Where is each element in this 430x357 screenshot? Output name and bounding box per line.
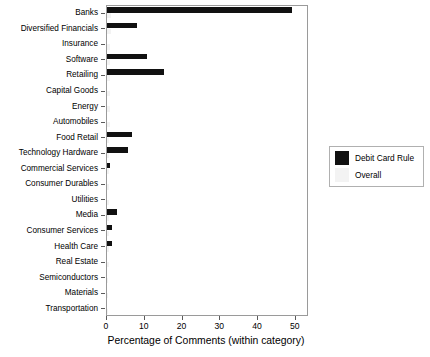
bar-overall <box>107 29 111 34</box>
y-axis-labels: BanksDiversified FinancialsInsuranceSoft… <box>0 5 98 316</box>
legend-swatch <box>335 151 349 165</box>
x-axis-tick-label: 40 <box>242 321 272 331</box>
y-axis-tick <box>101 44 105 45</box>
bar-row <box>107 255 307 270</box>
y-axis-tick <box>101 215 105 216</box>
bar-debit-card-rule <box>107 7 292 12</box>
bar-overall <box>107 91 110 96</box>
bar-overall <box>107 138 109 143</box>
y-axis-tick <box>101 293 105 294</box>
y-axis-tick <box>101 308 105 309</box>
y-axis-tick-label: Retailing <box>0 70 98 79</box>
x-axis-tick-label: 50 <box>280 321 310 331</box>
bar-overall <box>107 231 109 236</box>
bar-overall <box>107 278 108 283</box>
y-axis-tick <box>101 199 105 200</box>
y-axis-tick <box>101 168 105 169</box>
x-axis-tick <box>257 316 258 320</box>
bar-overall <box>107 200 109 205</box>
bar-row <box>107 22 307 37</box>
bar-row <box>107 130 307 145</box>
bar-row <box>107 146 307 161</box>
bar-row <box>107 6 307 21</box>
y-axis-tick <box>101 262 105 263</box>
legend-label: Overall <box>355 170 381 180</box>
bar-overall <box>107 215 109 220</box>
y-axis-tick <box>101 153 105 154</box>
bar-row <box>107 177 307 192</box>
y-axis-tick <box>101 91 105 92</box>
bar-debit-card-rule <box>107 163 110 168</box>
y-axis-tick-label: Diversified Financials <box>0 24 98 33</box>
y-axis-tick-label: Software <box>0 55 98 64</box>
legend: Debit Card RuleOverall <box>329 146 424 187</box>
bar-row <box>107 301 307 316</box>
bar-overall <box>107 13 111 18</box>
y-axis-tick-label: Banks <box>0 8 98 17</box>
x-axis-title: Percentage of Comments (within category) <box>86 334 326 347</box>
bar-overall <box>107 122 110 127</box>
y-axis-tick <box>101 230 105 231</box>
bar-overall <box>107 184 109 189</box>
bar-row <box>107 270 307 285</box>
bar-overall <box>107 169 109 174</box>
y-axis-tick <box>101 137 105 138</box>
plot-panel <box>106 5 308 316</box>
bar-chart: BanksDiversified FinancialsInsuranceSoft… <box>0 0 430 357</box>
y-axis-tick <box>101 28 105 29</box>
bar-row <box>107 84 307 99</box>
bar-debit-card-rule <box>107 225 112 230</box>
x-axis-tick <box>144 316 145 320</box>
y-axis-tick-label: Energy <box>0 102 98 111</box>
y-axis-tick-label: Food Retail <box>0 133 98 142</box>
y-axis-tick <box>101 59 105 60</box>
bar-row <box>107 115 307 130</box>
y-axis-tick-label: Transportation <box>0 304 98 313</box>
bar-overall <box>107 75 110 80</box>
legend-label: Debit Card Rule <box>355 153 414 163</box>
x-axis-tick <box>182 316 183 320</box>
x-axis-tick-label: 0 <box>91 321 121 331</box>
bar-row <box>107 99 307 114</box>
y-axis-tick-label: Insurance <box>0 39 98 48</box>
bar-row <box>107 286 307 301</box>
bar-overall <box>107 60 110 65</box>
y-axis-tick <box>101 246 105 247</box>
bar-overall <box>107 293 108 298</box>
y-axis-tick-label: Semiconductors <box>0 273 98 282</box>
y-axis-tick-label: Media <box>0 210 98 219</box>
y-axis-tick-label: Commercial Services <box>0 164 98 173</box>
y-axis-tick <box>101 106 105 107</box>
x-axis-tick-label: 20 <box>167 321 197 331</box>
y-axis-tick-label: Technology Hardware <box>0 148 98 157</box>
bar-debit-card-rule <box>107 209 117 214</box>
bar-debit-card-rule <box>107 54 147 59</box>
bar-debit-card-rule <box>107 69 164 74</box>
bar-row <box>107 37 307 52</box>
bar-row <box>107 193 307 208</box>
bar-row <box>107 224 307 239</box>
bar-row <box>107 162 307 177</box>
x-axis-tick <box>295 316 296 320</box>
y-axis-tick-label: Capital Goods <box>0 86 98 95</box>
y-axis-tick <box>101 184 105 185</box>
bar-overall <box>107 262 109 267</box>
bar-overall <box>107 106 110 111</box>
y-axis-tick-label: Automobiles <box>0 117 98 126</box>
bar-overall <box>107 246 109 251</box>
y-axis-tick-label: Consumer Services <box>0 226 98 235</box>
x-axis-tick <box>219 316 220 320</box>
y-axis-tick <box>101 13 105 14</box>
bar-debit-card-rule <box>107 23 137 28</box>
bar-debit-card-rule <box>107 241 112 246</box>
bar-overall <box>107 44 110 49</box>
y-axis-tick <box>101 122 105 123</box>
y-axis-tick <box>101 277 105 278</box>
x-axis-tick-label: 30 <box>204 321 234 331</box>
bar-row <box>107 68 307 83</box>
y-axis-tick-label: Real Estate <box>0 257 98 266</box>
y-axis-tick <box>101 75 105 76</box>
y-axis-tick-label: Consumer Durables <box>0 179 98 188</box>
bar-row <box>107 208 307 223</box>
bar-row <box>107 53 307 68</box>
